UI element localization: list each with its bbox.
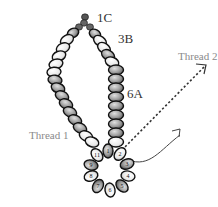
thread-1-path: [128, 129, 180, 162]
thread-2-path: [122, 64, 206, 150]
svg-text:9: 9: [90, 162, 93, 168]
svg-text:3: 3: [126, 161, 129, 167]
top-small-beads: [76, 14, 94, 30]
label-3b: 3B: [118, 32, 133, 45]
svg-text:7: 7: [97, 183, 100, 189]
label-6a: 6A: [127, 87, 143, 100]
svg-text:11: 11: [94, 152, 100, 158]
label-thread-2: Thread 2: [178, 51, 217, 62]
svg-text:5: 5: [121, 183, 124, 189]
label-thread-1: Thread 1: [29, 130, 68, 141]
svg-text:2: 2: [119, 151, 122, 157]
diagram-graphic: 1 2 3 4 5 6 7 8 9 11: [0, 0, 218, 207]
svg-text:6: 6: [109, 187, 112, 193]
bead-diagram: 1 2 3 4 5 6 7 8 9 11 1C 3B 6A Thread 1 T…: [0, 0, 218, 207]
label-1c: 1C: [97, 11, 112, 24]
svg-text:1: 1: [107, 148, 110, 154]
svg-text:8: 8: [90, 173, 93, 179]
svg-text:4: 4: [127, 173, 130, 179]
